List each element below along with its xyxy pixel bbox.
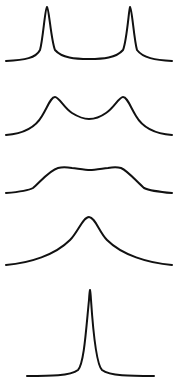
spectrum-trace-3 [6, 167, 172, 193]
spectrum-trace-1 [6, 7, 172, 61]
spectra-figure [0, 0, 185, 386]
spectrum-trace-5 [27, 290, 154, 376]
coalescence-diagram [0, 0, 185, 386]
spectrum-trace-2 [6, 97, 172, 135]
spectrum-trace-4 [6, 217, 172, 265]
